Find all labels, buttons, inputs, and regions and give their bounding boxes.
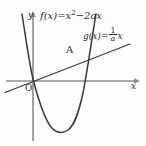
f-equals: = <box>57 10 65 21</box>
function-label-g: g(x)=1ax <box>83 28 123 44</box>
function-label-f: f(x)=x2−2ax <box>40 11 102 21</box>
g-trailing-variable: x <box>118 31 123 41</box>
graph-canvas <box>0 0 146 146</box>
origin-label: O <box>25 84 32 93</box>
x-axis-label: x <box>131 82 136 91</box>
g-fraction: 1a <box>109 27 116 43</box>
g-arg: (x) <box>89 31 101 41</box>
g-fraction-numerator: 1 <box>109 27 116 34</box>
g-equals: = <box>101 31 109 41</box>
f-term2: −2ax <box>76 10 102 21</box>
g-fraction-denominator: a <box>109 34 116 43</box>
math-figure: f(x)=x2−2ax g(x)=1ax A O x y <box>0 0 146 146</box>
point-label-a: A <box>66 45 73 55</box>
f-arg: (x) <box>44 10 57 21</box>
y-axis-label: y <box>28 11 33 20</box>
